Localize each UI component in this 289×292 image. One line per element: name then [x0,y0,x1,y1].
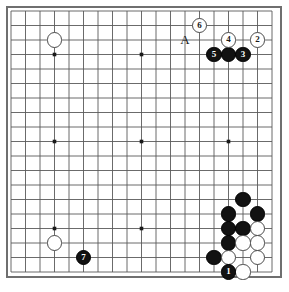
stone-black-move-7[interactable]: 7 [76,250,91,265]
stone-white-r3[interactable] [235,235,250,250]
stone-black-p2[interactable] [206,250,221,265]
stone-white-d17[interactable] [47,32,62,47]
stone-black-r4[interactable] [235,221,250,236]
stone-white-s2[interactable] [250,250,265,265]
stone-white-r1[interactable] [235,264,250,279]
stone-white-move-2[interactable]: 2 [250,32,265,47]
stone-move-number: 4 [226,35,231,44]
point-label-a[interactable]: A [178,33,192,46]
stone-white-move-6[interactable]: 6 [192,18,207,33]
stone-black-q4[interactable] [221,221,236,236]
stone-move-number: 7 [81,253,86,262]
stone-move-number: 5 [212,50,217,59]
go-board-diagram: 6425317A [0,0,289,292]
stone-black-q5a[interactable] [221,206,236,221]
stone-move-number: 6 [197,21,202,30]
stone-black-r6-upper[interactable] [235,192,250,207]
stone-black-s5[interactable] [250,206,265,221]
stone-white-s3[interactable] [250,235,265,250]
stone-move-number: 3 [241,50,246,59]
stone-white-q2[interactable] [221,250,236,265]
stone-move-number: 2 [255,35,260,44]
stone-move-number: 1 [226,267,231,276]
stone-black-q16[interactable] [221,47,236,62]
stone-black-move-3[interactable]: 3 [235,47,250,62]
stone-white-d3[interactable] [47,235,62,250]
stone-black-move-5[interactable]: 5 [206,47,221,62]
stone-black-q3[interactable] [221,235,236,250]
stone-layer: 6425317A [0,0,289,292]
stone-white-s4[interactable] [250,221,265,236]
stone-black-move-1[interactable]: 1 [221,264,236,279]
stone-white-move-4[interactable]: 4 [221,32,236,47]
